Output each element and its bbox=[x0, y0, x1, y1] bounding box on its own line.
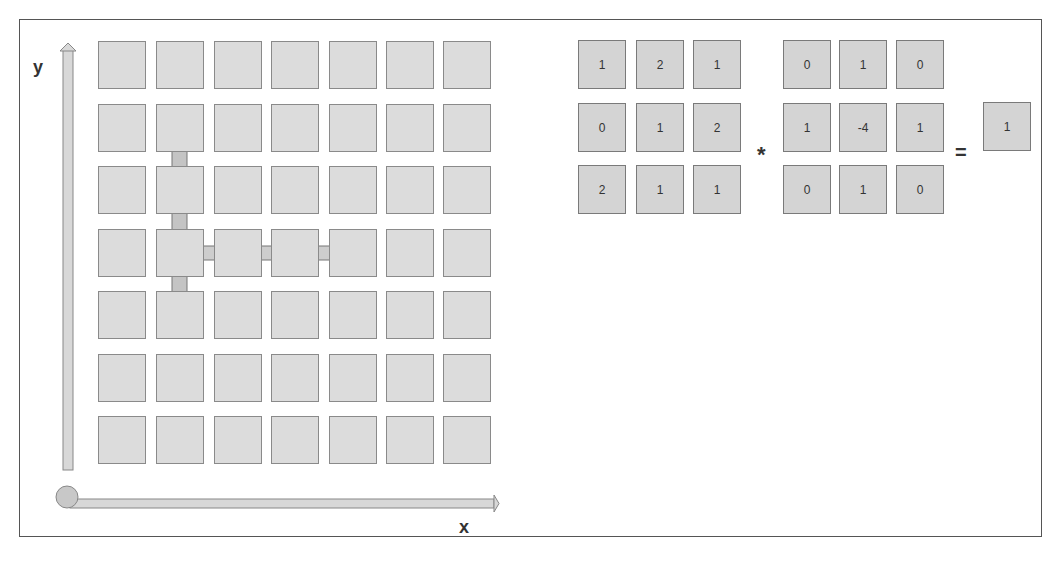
kernel-cell: 0 bbox=[896, 165, 944, 214]
kernel-cell: 1 bbox=[896, 103, 944, 152]
input-matrix-value: 1 bbox=[714, 58, 721, 72]
grid-cell bbox=[329, 166, 377, 214]
grid-cell bbox=[98, 354, 146, 402]
input-matrix-value: 1 bbox=[657, 121, 664, 135]
grid-cell bbox=[214, 354, 262, 402]
grid-cell bbox=[214, 41, 262, 89]
result-cell: 1 bbox=[983, 102, 1031, 151]
grid-cell bbox=[156, 104, 204, 152]
input-matrix-cell: 1 bbox=[636, 103, 684, 152]
grid-cell bbox=[386, 166, 434, 214]
grid-cell bbox=[156, 354, 204, 402]
grid-cell bbox=[271, 229, 319, 277]
y-axis-label: y bbox=[33, 57, 43, 78]
grid-cell bbox=[214, 104, 262, 152]
grid-cell bbox=[98, 41, 146, 89]
grid-cell bbox=[271, 41, 319, 89]
grid-cell bbox=[386, 104, 434, 152]
input-matrix-value: 1 bbox=[599, 58, 606, 72]
grid-cell bbox=[443, 354, 491, 402]
grid-cell bbox=[443, 104, 491, 152]
grid-cell bbox=[329, 229, 377, 277]
grid-cell bbox=[386, 41, 434, 89]
grid-cell bbox=[98, 229, 146, 277]
grid-cell bbox=[156, 41, 204, 89]
grid-cell bbox=[98, 104, 146, 152]
kernel-value: 1 bbox=[917, 121, 924, 135]
y-axis-arrow bbox=[60, 43, 76, 470]
kernel-value: 1 bbox=[804, 121, 811, 135]
input-matrix-value: 0 bbox=[599, 121, 606, 135]
grid-cell bbox=[156, 416, 204, 464]
grid-cell bbox=[443, 416, 491, 464]
grid-cell bbox=[214, 291, 262, 339]
kernel-value: 0 bbox=[804, 183, 811, 197]
convolution-operator: * bbox=[757, 142, 766, 168]
grid-cell bbox=[98, 416, 146, 464]
grid-cell bbox=[386, 291, 434, 339]
grid-cell bbox=[271, 291, 319, 339]
grid-cell bbox=[443, 166, 491, 214]
input-matrix-cell: 1 bbox=[578, 40, 626, 89]
input-matrix-cell: 2 bbox=[578, 165, 626, 214]
grid-cell bbox=[443, 41, 491, 89]
kernel-value: 1 bbox=[860, 183, 867, 197]
kernel-cell: 1 bbox=[783, 103, 831, 152]
x-axis-arrow bbox=[70, 495, 499, 512]
grid-cell bbox=[156, 229, 204, 277]
input-matrix-cell: 1 bbox=[636, 165, 684, 214]
kernel-value: -4 bbox=[858, 121, 869, 135]
origin-icon bbox=[56, 486, 78, 508]
kernel-cell: 0 bbox=[896, 40, 944, 89]
input-matrix-value: 1 bbox=[714, 183, 721, 197]
input-matrix-cell: 1 bbox=[693, 40, 741, 89]
input-matrix-value: 2 bbox=[599, 183, 606, 197]
kernel-cell: 1 bbox=[839, 40, 887, 89]
grid-cell bbox=[98, 291, 146, 339]
input-matrix-cell: 1 bbox=[693, 165, 741, 214]
kernel-cell: 0 bbox=[783, 165, 831, 214]
grid-cell bbox=[214, 166, 262, 214]
grid-cell bbox=[156, 291, 204, 339]
grid-cell bbox=[329, 416, 377, 464]
grid-cell bbox=[329, 41, 377, 89]
grid-cell bbox=[98, 166, 146, 214]
grid-cell bbox=[329, 104, 377, 152]
kernel-value: 0 bbox=[917, 183, 924, 197]
grid-cell bbox=[271, 166, 319, 214]
input-matrix-value: 2 bbox=[714, 121, 721, 135]
grid-cell bbox=[271, 416, 319, 464]
kernel-value: 1 bbox=[860, 58, 867, 72]
kernel-value: 0 bbox=[917, 58, 924, 72]
kernel-cell: -4 bbox=[839, 103, 887, 152]
result-value: 1 bbox=[1004, 120, 1011, 134]
input-matrix-cell: 0 bbox=[578, 103, 626, 152]
equals-sign: = bbox=[955, 141, 967, 164]
grid-cell bbox=[329, 291, 377, 339]
kernel-cell: 0 bbox=[783, 40, 831, 89]
grid-cell bbox=[386, 229, 434, 277]
grid-cell bbox=[271, 104, 319, 152]
grid-cell bbox=[271, 354, 319, 402]
grid-cell bbox=[386, 354, 434, 402]
x-axis-label: x bbox=[459, 517, 469, 538]
input-matrix-value: 2 bbox=[657, 58, 664, 72]
kernel-cell: 1 bbox=[839, 165, 887, 214]
grid-cell bbox=[443, 291, 491, 339]
grid-cell bbox=[214, 416, 262, 464]
input-matrix-cell: 2 bbox=[693, 103, 741, 152]
grid-cell bbox=[214, 229, 262, 277]
kernel-value: 0 bbox=[804, 58, 811, 72]
input-matrix-value: 1 bbox=[657, 183, 664, 197]
input-matrix-cell: 2 bbox=[636, 40, 684, 89]
grid-cell bbox=[329, 354, 377, 402]
grid-cell bbox=[443, 229, 491, 277]
grid-cell bbox=[156, 166, 204, 214]
grid-cell bbox=[386, 416, 434, 464]
